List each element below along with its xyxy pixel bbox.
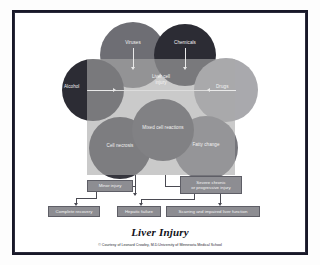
flow-severe-to-hepatic-h [141, 199, 195, 200]
flow-minor-to-recovery-h [76, 198, 97, 199]
box-complete-recovery[interactable]: Complete recovery [48, 206, 100, 217]
box-minor-injury[interactable]: Minor injury [87, 180, 133, 192]
cell-necrosis-label: Cell necrosis [89, 143, 151, 149]
fatty-change-label: Fatty change [174, 142, 238, 148]
arrow-chemicals-head [183, 67, 187, 70]
arrow-alcohol-head [113, 88, 116, 92]
figure-credit: © Courtesy of Leonard Crowley, M.D.Unive… [14, 243, 306, 247]
arrow-viruses-head [131, 67, 135, 70]
figure-page: Liver cell injury Viruses Chemicals Alco… [0, 0, 320, 265]
box-scarring[interactable]: Scarring and impaired liver function [166, 206, 260, 217]
liver-cell-injury-label-line2: injury [87, 80, 235, 86]
figure-frame: Liver cell injury Viruses Chemicals Alco… [12, 10, 308, 255]
box-severe-injury[interactable]: Severe chronic or progressive injury [180, 176, 242, 194]
flow-stem-right [165, 175, 166, 186]
chemicals-label: Chemicals [154, 40, 216, 46]
figure-title: Liver Injury [14, 226, 306, 238]
venn-stage: Liver cell injury Viruses Chemicals Alco… [14, 12, 306, 253]
box-severe-injury-line2: or progressive injury [191, 185, 231, 190]
box-hepatic-failure[interactable]: Hepatic failure [117, 206, 161, 217]
flow-stem-left [135, 175, 136, 195]
arrow-alcohol-line [88, 90, 114, 91]
arrow-viruses-line [133, 48, 134, 68]
arrow-chemicals-line [185, 48, 186, 68]
arrow-drugs-head [207, 88, 210, 92]
flow-stem-left-head [133, 193, 137, 196]
arrow-drugs-line [210, 90, 236, 91]
mixed-cell-reactions-label: Mixed cell reactions [132, 125, 194, 131]
